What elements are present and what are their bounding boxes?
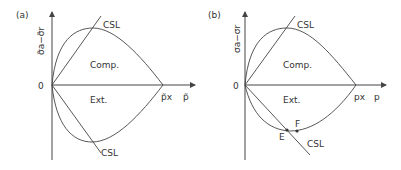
panel-a-csl-lower-label: CSL [101, 148, 118, 158]
panel-b-csl-upper-label: CSL [297, 20, 314, 30]
panel-a-extension-region-label: Ext. [90, 95, 107, 105]
panel-a: (a) σ̃a−σ̃r p̃ 0 p̃x CSL CSL Comp. Ext. [16, 10, 195, 160]
point-e-marker [285, 128, 288, 131]
point-f-marker [295, 129, 298, 132]
panel-a-origin-label: 0 [38, 81, 44, 91]
panel-b-csl-upper-line [245, 16, 295, 85]
panel-a-label: (a) [16, 10, 29, 20]
panel-b-x-axis-label: p [374, 92, 380, 102]
panel-a-x-axis-label: p̃ [183, 92, 189, 102]
panel-b: (b) σa−σr p 0 px CSL CSL Comp. Ext. E F [208, 10, 386, 160]
panel-a-csl-upper-label: CSL [103, 20, 120, 30]
panel-b-intercept-label: px [354, 92, 366, 102]
panel-b-origin-label: 0 [233, 81, 239, 91]
panel-a-lower-yield-curve [52, 85, 163, 142]
panel-b-compression-region-label: Comp. [283, 60, 312, 70]
panel-a-upper-yield-curve [52, 28, 163, 85]
panel-a-compression-region-label: Comp. [90, 60, 119, 70]
point-f-label: F [295, 119, 300, 129]
panel-b-csl-lower-label: CSL [307, 139, 324, 149]
panel-b-label: (b) [208, 10, 221, 20]
panel-a-csl-upper-line [52, 16, 101, 85]
panel-b-lower-yield-curve [245, 85, 356, 131]
figure-canvas: (a) σ̃a−σ̃r p̃ 0 p̃x CSL CSL Comp. Ext. … [0, 0, 401, 170]
panel-b-extension-region-label: Ext. [283, 95, 300, 105]
panel-a-intercept-label: p̃x [161, 92, 173, 102]
point-e-label: E [279, 132, 285, 142]
panel-a-y-axis-label: σ̃a−σ̃r [36, 27, 46, 55]
panel-b-upper-yield-curve [245, 28, 356, 85]
panel-b-y-axis-label: σa−σr [232, 25, 242, 53]
